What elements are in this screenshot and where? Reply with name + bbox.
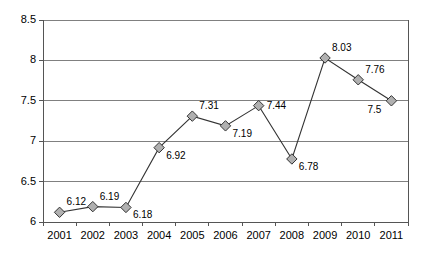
data-point-label: 6.19 xyxy=(100,192,119,202)
y-axis-tick-label: 6.5 xyxy=(21,176,36,187)
data-point-label: 6.78 xyxy=(299,162,318,172)
y-axis-tick-label: 7 xyxy=(30,135,36,146)
data-point-label: 7.5 xyxy=(367,105,381,115)
data-point-label: 7.44 xyxy=(267,101,286,111)
x-axis-ticks-group xyxy=(43,222,408,226)
y-axis-tick-label: 6 xyxy=(30,216,36,227)
y-axis-tick-label: 8.5 xyxy=(21,14,36,25)
data-point-label: 6.92 xyxy=(166,151,185,161)
data-point-label: 7.76 xyxy=(365,65,384,75)
y-axis-tick-label: 8 xyxy=(30,54,36,65)
x-axis-tick-label: 2011 xyxy=(371,230,411,241)
y-axis-tick-label: 7.5 xyxy=(21,95,36,106)
line-chart: 66.577.588.5 200120022003200420052006200… xyxy=(0,0,432,259)
data-point-label: 7.19 xyxy=(233,129,252,139)
data-point-label: 8.03 xyxy=(332,43,351,53)
y-axis-ticks-group xyxy=(39,20,43,222)
data-point-label: 6.12 xyxy=(67,197,86,207)
chart-canvas xyxy=(0,0,432,259)
data-point-label: 6.18 xyxy=(133,210,152,220)
data-point-label: 7.31 xyxy=(199,101,218,111)
